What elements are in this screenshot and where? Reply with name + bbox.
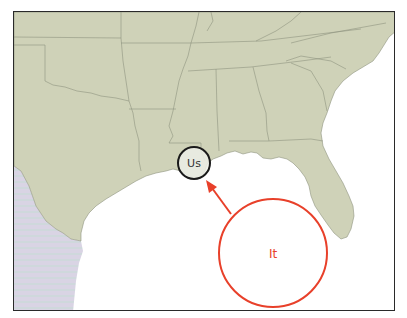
us-label: Us [187,157,201,170]
map-frame: Us It [13,11,395,311]
it-label: It [269,247,278,261]
us-marker: Us [178,147,210,179]
map-canvas: Us It [14,12,395,311]
